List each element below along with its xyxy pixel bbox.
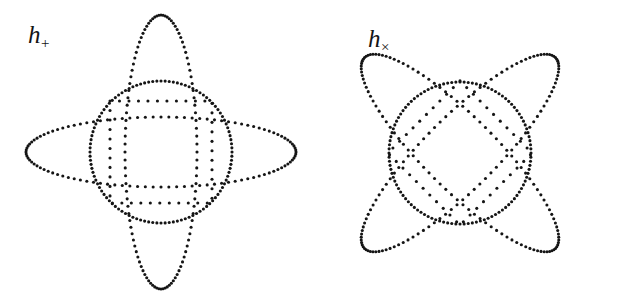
panel-h-plus	[24, 13, 297, 290]
panel-label-h-plus: h+	[28, 22, 49, 51]
panel-label-h-cross: h×	[368, 26, 389, 55]
figure-canvas	[0, 0, 621, 298]
panel-label-h-cross-symbol: h	[368, 25, 381, 52]
h-plus-horizontal-ellipse	[24, 115, 297, 188]
panel-label-h-cross-subscript: ×	[381, 39, 389, 55]
panel-h-cross	[360, 53, 561, 254]
panel-label-h-plus-symbol: h	[28, 21, 41, 48]
panel-label-h-plus-subscript: +	[41, 35, 49, 51]
h-plus-vertical-ellipse	[123, 13, 198, 290]
h-cross-reference-circle	[387, 80, 532, 225]
polarization-figure: h+ h×	[0, 0, 621, 298]
